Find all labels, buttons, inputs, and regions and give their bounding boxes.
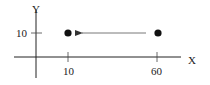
coordinate-diagram: Y X 10 10 60	[0, 0, 210, 85]
y-axis-label: Y	[32, 3, 40, 15]
left-point	[64, 29, 71, 36]
right-point	[154, 29, 161, 36]
y-tick-label-10: 10	[16, 27, 28, 39]
x-tick-label-10: 10	[63, 65, 75, 77]
x-axis-label: X	[188, 54, 196, 66]
x-tick-label-60: 60	[151, 65, 163, 77]
